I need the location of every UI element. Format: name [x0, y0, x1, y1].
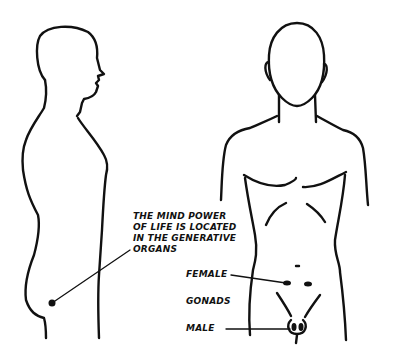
diagram-canvas: THE MIND POWER OF LIFE IS LOCATED IN THE… [0, 0, 394, 361]
female-pointer-line [231, 275, 286, 283]
front-view-figure [221, 23, 368, 343]
annotation-line: OF LIFE IS LOCATED [133, 222, 237, 233]
male-label: MALE [186, 323, 215, 334]
female-label: FEMALE [186, 269, 227, 280]
annotation-line: ORGANS [133, 244, 237, 255]
mind-power-pointer-line [52, 250, 130, 303]
annotation-line: IN THE GENERATIVE [133, 233, 237, 244]
mind-power-annotation: THE MIND POWER OF LIFE IS LOCATED IN THE… [133, 211, 237, 255]
gonads-label: GONADS [186, 296, 231, 307]
annotation-line: THE MIND POWER [133, 211, 237, 222]
side-profile-figure [22, 27, 107, 338]
